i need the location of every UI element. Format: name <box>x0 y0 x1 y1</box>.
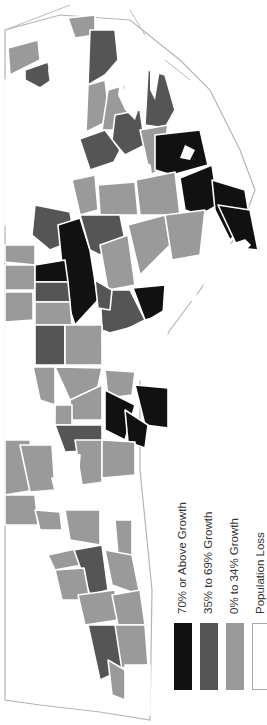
legend-swatch-70-plus <box>174 623 192 690</box>
legend-label-35-69: 35% to 69% Growth <box>202 512 214 614</box>
legend-swatch-loss <box>252 623 267 690</box>
legend-swatch-35-69 <box>200 623 218 690</box>
legend-label-70-plus: 70% or Above Growth <box>176 502 188 614</box>
legend-label-0-34: 0% to 34% Growth <box>228 518 240 614</box>
legend-label-loss: Population Loss <box>254 532 266 614</box>
legend-swatch-0-34 <box>226 623 244 690</box>
legend: 70% or Above Growth 35% to 69% Growth 0%… <box>170 490 265 725</box>
counties-south <box>5 440 150 715</box>
counties-central <box>5 205 250 485</box>
